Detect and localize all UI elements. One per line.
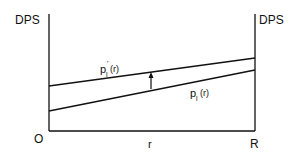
lower-curve-label: p l (r)	[190, 87, 209, 102]
left-axis-label: DPS	[15, 13, 40, 27]
x-end-label: R	[250, 137, 259, 151]
svg-text:l: l	[196, 95, 198, 102]
upper-curve-line	[49, 58, 255, 86]
svg-text:l: l	[106, 71, 108, 78]
origin-label: O	[34, 132, 43, 146]
svg-text:': '	[107, 59, 109, 68]
right-axis-label: DPS	[259, 13, 284, 27]
svg-text:(r): (r)	[110, 64, 119, 74]
upper-curve-label: p ' l (r)	[100, 59, 119, 78]
up-arrow-icon	[149, 72, 154, 89]
dps-diagram: DPS DPS O r R p ' l (r) p l (r)	[0, 0, 297, 161]
svg-text:(r): (r)	[200, 88, 209, 98]
x-axis-label: r	[148, 138, 152, 150]
